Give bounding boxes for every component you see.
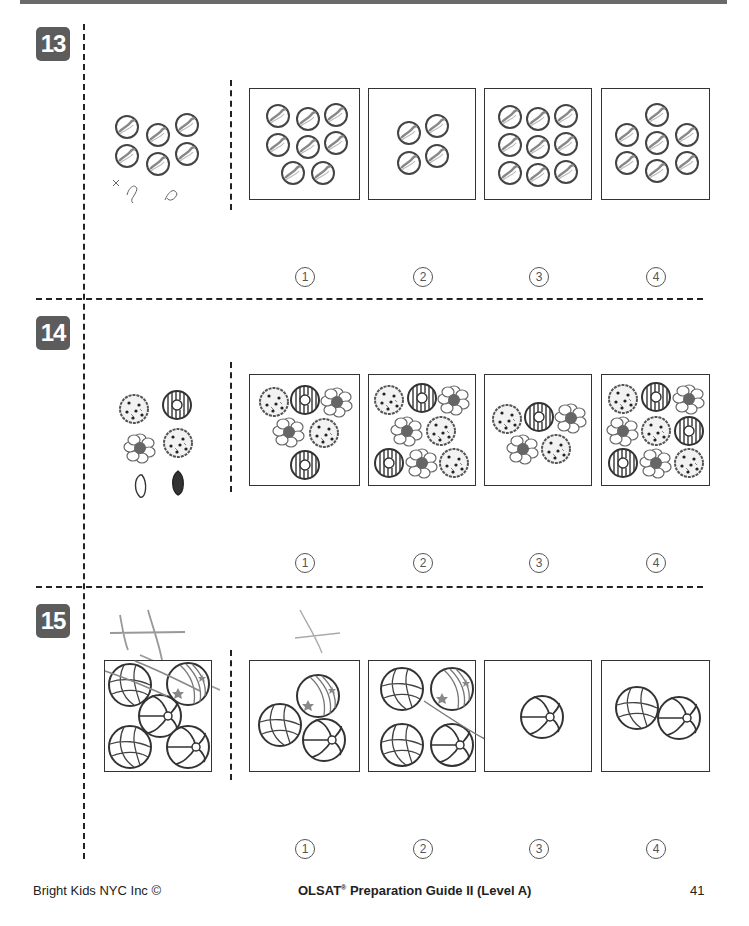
footer-title: OLSAT® Preparation Guide II (Level A) [298, 883, 531, 898]
question-number-badge: 15 [36, 604, 70, 638]
answer-bubble-4[interactable]: 4 [646, 553, 666, 573]
answer-option-box-2[interactable] [368, 374, 476, 486]
left-margin-divider [83, 24, 85, 859]
answer-option-box-3[interactable] [484, 374, 592, 486]
answer-bubble-4[interactable]: 4 [646, 267, 666, 287]
answer-bubble-3[interactable]: 3 [529, 267, 549, 287]
answer-bubble-1[interactable]: 1 [295, 553, 315, 573]
stimulus-marbles [105, 105, 215, 215]
stimulus-box [104, 660, 212, 772]
footer-title-rest: Preparation Guide II (Level A) [346, 883, 531, 898]
answer-bubble-4[interactable]: 4 [646, 839, 666, 859]
answer-option-box-3[interactable] [484, 88, 592, 200]
answer-option-box-1[interactable] [249, 374, 360, 486]
question-number-badge: 13 [36, 27, 70, 61]
answer-bubble-3[interactable]: 3 [529, 839, 549, 859]
answer-bubble-1[interactable]: 1 [295, 839, 315, 859]
answer-option-box-4[interactable] [601, 660, 710, 772]
answer-bubble-2[interactable]: 2 [413, 553, 433, 573]
answer-option-box-4[interactable] [601, 374, 710, 486]
answer-bubble-2[interactable]: 2 [413, 267, 433, 287]
page-number: 41 [690, 883, 704, 898]
stimulus-divider [230, 362, 232, 492]
answer-option-box-2[interactable] [368, 660, 476, 772]
footer-copyright: Bright Kids NYC Inc © [33, 883, 161, 898]
header-bar [20, 0, 727, 4]
question-divider-13-14 [36, 298, 703, 300]
answer-option-box-2[interactable] [368, 88, 476, 200]
answer-option-box-3[interactable] [484, 660, 592, 772]
stimulus-divider [230, 650, 232, 780]
answer-bubble-3[interactable]: 3 [529, 553, 549, 573]
question-number-badge: 14 [36, 316, 70, 350]
stimulus-pastries [110, 385, 210, 505]
answer-bubble-1[interactable]: 1 [295, 267, 315, 287]
answer-option-box-1[interactable] [249, 660, 360, 772]
answer-option-box-4[interactable] [601, 88, 710, 200]
answer-bubble-2[interactable]: 2 [413, 839, 433, 859]
stimulus-divider [230, 80, 232, 210]
answer-option-box-1[interactable] [249, 88, 360, 200]
footer-title-brand: OLSAT [298, 883, 341, 898]
question-divider-14-15 [36, 586, 703, 588]
